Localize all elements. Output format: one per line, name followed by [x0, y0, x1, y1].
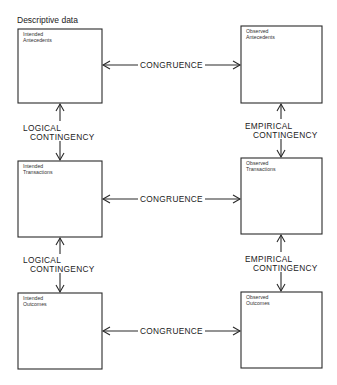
congruence-link-outcomes: CONGRUENCE — [103, 326, 240, 336]
box-label-line2: Antecedents — [246, 34, 275, 40]
box-observed-outcomes: Observed Outcomes — [241, 292, 322, 368]
congruence-link-antecedents: CONGRUENCE — [103, 60, 240, 70]
box-label-line2: Outcomes — [23, 301, 47, 307]
congruence-label: CONGRUENCE — [140, 60, 203, 70]
contingency-label-line2: CONTINGENCY — [30, 264, 95, 274]
contingency-label-line2: CONTINGENCY — [30, 132, 95, 142]
empirical-contingency-link-upper: EMPIRICAL CONTINGENCY — [245, 104, 318, 157]
congruence-label: CONGRUENCE — [140, 194, 203, 204]
box-intended-outcomes: Intended Outcomes — [18, 293, 102, 369]
diagram-title: Descriptive data — [17, 15, 78, 25]
box-label-line2: Outcomes — [246, 300, 270, 306]
contingency-label-line2: CONTINGENCY — [253, 130, 318, 140]
box-label-line2: Antecedents — [23, 37, 52, 43]
logical-contingency-link-lower: LOGICAL CONTINGENCY — [23, 238, 95, 292]
contingency-label-line2: CONTINGENCY — [253, 263, 318, 273]
box-observed-transactions: Observed Transactions — [241, 158, 322, 234]
box-observed-antecedents: Observed Antecedents — [241, 26, 322, 103]
congruence-link-transactions: CONGRUENCE — [103, 194, 240, 204]
empirical-contingency-link-lower: EMPIRICAL CONTINGENCY — [245, 235, 318, 291]
logical-contingency-link-upper: LOGICAL CONTINGENCY — [23, 104, 95, 160]
congruence-label: CONGRUENCE — [140, 326, 203, 336]
box-intended-antecedents: Intended Antecedents — [18, 29, 102, 103]
box-label-line2: Transactions — [23, 169, 53, 175]
box-intended-transactions: Intended Transactions — [18, 161, 102, 237]
box-label-line2: Transactions — [246, 166, 276, 172]
descriptive-data-diagram: Descriptive data Intended Antecedents Ob… — [0, 0, 337, 385]
